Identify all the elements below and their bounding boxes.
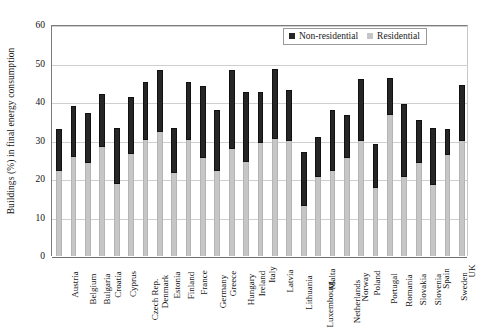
bar-group (330, 110, 336, 256)
bar-segment-non-residential (387, 78, 393, 116)
x-tick-label: Hungary (246, 274, 255, 306)
bar-segment-residential (401, 177, 407, 256)
bar-segment-non-residential (459, 85, 465, 141)
x-tick-label: Italy (268, 266, 277, 283)
bar-segment-non-residential (243, 92, 249, 162)
bar-segment-residential (373, 188, 379, 256)
bar-segment-non-residential (445, 129, 451, 156)
bar-segment-residential (387, 115, 393, 256)
bar-segment-non-residential (301, 152, 307, 206)
bar-segment-residential (99, 147, 105, 256)
bar-group (56, 129, 62, 256)
bar-segment-non-residential (401, 104, 407, 177)
x-axis-tick-labels: AustriaBelgiumBulgariaCroatiaCyprusCzech… (51, 258, 468, 329)
bar-group (387, 78, 393, 256)
x-tick-label: Poland (373, 271, 382, 296)
bar-group (114, 128, 120, 256)
bar-segment-residential (157, 132, 163, 256)
bar-segment-residential (258, 143, 264, 256)
bar-segment-residential (128, 154, 134, 256)
x-tick-label: Latvia (285, 270, 294, 293)
x-tick-label: Romania (405, 274, 414, 307)
bar-segment-non-residential (200, 86, 206, 158)
bar-group (258, 92, 264, 256)
bar-group (430, 128, 436, 256)
bar-segment-non-residential (344, 115, 350, 157)
bar-group (143, 82, 149, 256)
bar-segment-non-residential (358, 79, 364, 140)
plot-area (51, 25, 468, 256)
bars-layer (52, 26, 467, 256)
legend-item-residential: Residential (367, 31, 420, 41)
bar-group (416, 120, 422, 256)
y-tick-label-40: 40 (36, 97, 46, 107)
x-tick-label: Ireland (258, 271, 267, 296)
legend-item-non-residential: Non-residential (289, 31, 358, 41)
bar-segment-residential (459, 141, 465, 256)
bar-segment-residential (358, 141, 364, 257)
bar-segment-residential (445, 155, 451, 256)
legend-label-non-residential: Non-residential (299, 31, 358, 41)
x-tick-label: Portugal (390, 273, 399, 304)
x-tick-label: Belgium (88, 274, 97, 305)
stacked-bar-chart: Buildings (%) in final energy consumptio… (0, 0, 477, 329)
bar-group (301, 152, 307, 256)
bar-segment-residential (272, 139, 278, 256)
chart-legend: Non-residential Residential (283, 28, 427, 45)
y-axis-title: Buildings (%) in final energy consumptio… (0, 0, 22, 262)
bar-group (171, 128, 177, 256)
x-tick-label: Austria (71, 271, 80, 298)
x-tick-label: Greece (229, 271, 238, 296)
y-tick-label-60: 60 (36, 20, 46, 30)
x-tick-label: UK (467, 265, 476, 278)
bar-group (229, 70, 235, 256)
bar-segment-residential (200, 158, 206, 256)
bar-segment-non-residential (214, 110, 220, 171)
bar-segment-non-residential (171, 128, 177, 173)
bar-segment-non-residential (229, 70, 235, 150)
bar-segment-non-residential (430, 128, 436, 185)
bar-segment-residential (214, 171, 220, 256)
bar-group (85, 113, 91, 256)
x-tick-label: Bulgaria (102, 274, 111, 305)
bar-group (358, 79, 364, 256)
bar-segment-residential (85, 163, 91, 256)
y-tick-label-20: 20 (36, 174, 46, 184)
bar-segment-residential (301, 206, 307, 256)
bar-segment-residential (430, 185, 436, 256)
bar-segment-non-residential (416, 120, 422, 163)
bar-group (128, 97, 134, 256)
bar-segment-non-residential (56, 129, 62, 171)
bar-segment-non-residential (128, 97, 134, 154)
bar-group (186, 82, 192, 256)
x-tick-label: France (200, 270, 209, 295)
bar-group (315, 137, 321, 256)
x-tick-label: Lithuania (306, 275, 315, 310)
bar-segment-residential (416, 163, 422, 256)
x-tick-label: Finland (187, 272, 196, 300)
bar-segment-non-residential (272, 69, 278, 139)
bar-group (401, 104, 407, 256)
x-tick-label: Cyprus (129, 271, 138, 297)
bar-segment-residential (229, 149, 235, 256)
bar-segment-residential (344, 158, 350, 256)
bar-segment-non-residential (186, 82, 192, 140)
bar-segment-non-residential (71, 106, 77, 157)
x-tick-label: Slovakia (419, 274, 428, 306)
bar-segment-non-residential (286, 90, 292, 140)
x-tick-label: Spain (442, 268, 451, 289)
bar-segment-non-residential (99, 94, 105, 147)
x-tick-label: Germany (219, 275, 228, 309)
bar-segment-residential (330, 171, 336, 256)
bar-segment-non-residential (315, 137, 321, 177)
bar-segment-non-residential (157, 70, 163, 132)
x-tick-label: Czech Rep. (151, 279, 160, 320)
bar-segment-residential (286, 141, 292, 257)
y-tick-label-10: 10 (36, 213, 46, 223)
bar-segment-residential (114, 184, 120, 256)
y-tick-label-50: 50 (36, 59, 46, 69)
x-tick-label: Malta (328, 269, 337, 290)
bar-group (243, 92, 249, 256)
bar-group (445, 129, 451, 256)
bar-segment-non-residential (258, 92, 264, 143)
